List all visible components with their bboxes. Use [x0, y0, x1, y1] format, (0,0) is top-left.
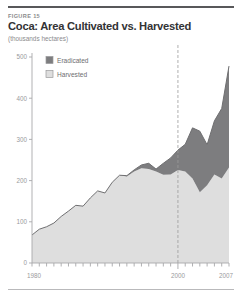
- y-axis-tick-label: 200: [16, 177, 27, 184]
- x-axis-tick-label: 1980: [27, 272, 42, 279]
- figure-container: FIGURE 15 Coca: Area Cultivated vs. Harv…: [0, 0, 242, 299]
- x-axis-tick-label: 2000: [171, 272, 186, 279]
- area-chart-svg: 0100200300400500198020002007EradicatedHa…: [0, 44, 242, 290]
- y-axis-tick-label: 100: [16, 218, 27, 225]
- page-title: Coca: Area Cultivated vs. Harvested: [8, 20, 191, 32]
- legend-label-harvested: Harvested: [57, 71, 87, 78]
- x-axis-tick-label: 2007: [219, 272, 234, 279]
- legend-swatch-eradicated: [46, 57, 53, 64]
- chart-plot-area: 0100200300400500198020002007EradicatedHa…: [0, 44, 242, 290]
- figure-number: FIGURE 15: [8, 13, 40, 19]
- legend-swatch-harvested: [46, 71, 53, 78]
- y-axis-tick-label: 0: [23, 259, 27, 266]
- legend-label-eradicated: Eradicated: [57, 57, 89, 64]
- top-divider: [8, 6, 234, 8]
- units-subtitle: (thousands hectares): [8, 35, 68, 42]
- bottom-divider: [8, 289, 234, 290]
- y-axis-tick-label: 400: [16, 95, 27, 102]
- y-axis-tick-label: 500: [16, 53, 27, 60]
- y-axis-tick-label: 300: [16, 136, 27, 143]
